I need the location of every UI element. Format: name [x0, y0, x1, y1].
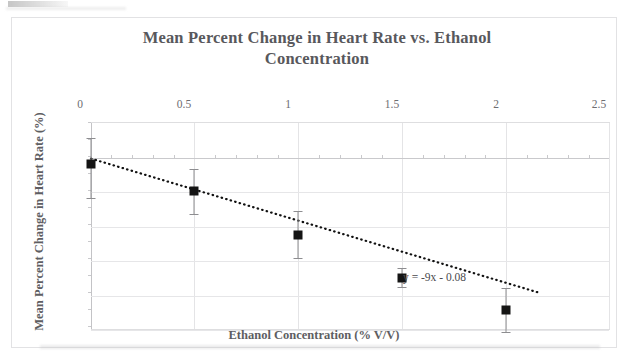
x-minor-tick — [382, 155, 383, 158]
gridline-vertical — [609, 123, 610, 329]
x-minor-tick — [465, 155, 466, 158]
data-point-marker[interactable] — [294, 231, 303, 240]
x-minor-tick — [361, 155, 362, 158]
data-point-marker[interactable] — [502, 306, 511, 315]
gridline-horizontal — [91, 261, 609, 262]
x-minor-tick — [153, 155, 154, 158]
chart-title: Mean Percent Change in Heart Rate vs. Et… — [72, 27, 562, 69]
chart-title-line-2: Concentration — [265, 49, 369, 68]
x-minor-tick — [236, 155, 237, 158]
error-bar-cap-upper — [294, 211, 303, 212]
x-minor-tick — [568, 155, 569, 158]
x-minor-tick — [340, 155, 341, 158]
x-minor-tick — [444, 155, 445, 158]
error-bar-cap-upper — [87, 138, 96, 139]
x-minor-tick — [257, 155, 258, 158]
gridline-zero — [91, 158, 609, 159]
data-point-marker[interactable] — [87, 160, 96, 169]
x-tick-label-2_5: 2.5 — [592, 98, 606, 110]
plot-area: y = -9x - 0.08 — [91, 122, 610, 330]
gridline-horizontal — [91, 192, 609, 193]
x-tick-label-1_5: 1.5 — [385, 98, 399, 110]
error-bar-cap-lower — [294, 258, 303, 259]
x-minor-tick — [174, 155, 175, 158]
x-tick-label-2: 2 — [493, 98, 499, 110]
x-minor-tick — [423, 155, 424, 158]
x-tick-label-1: 1 — [285, 98, 291, 110]
x-minor-tick — [278, 155, 279, 158]
data-point-marker[interactable] — [190, 187, 199, 196]
gridline-horizontal — [91, 227, 609, 228]
x-minor-tick — [527, 155, 528, 158]
gridline-vertical — [194, 123, 195, 329]
x-axis-title: Ethanol Concentration (% V/V) — [12, 328, 616, 343]
scan-artifact-top-secondary — [6, 7, 126, 10]
x-minor-tick — [132, 155, 133, 158]
chart-figure: Mean Percent Change in Heart Rate vs. Et… — [11, 17, 617, 348]
x-tick-label-0: 0 — [77, 98, 83, 110]
x-minor-tick — [215, 155, 216, 158]
error-bar-cap-lower — [87, 198, 96, 199]
chart-title-line-1: Mean Percent Change in Heart Rate vs. Et… — [143, 28, 492, 47]
gridline-vertical — [402, 123, 403, 329]
x-minor-tick — [111, 155, 112, 158]
scan-artifact-bottom — [40, 345, 600, 349]
error-bar-cap-lower — [190, 214, 199, 215]
error-bar-cap-upper — [502, 288, 511, 289]
gridline-horizontal — [91, 296, 609, 297]
x-minor-tick — [319, 155, 320, 158]
y-axis-title: Mean Percent Change in Heart Rate (%) — [32, 77, 47, 362]
x-minor-tick — [589, 155, 590, 158]
error-bar-cap-lower — [398, 287, 407, 288]
trendline-equation-label: y = -9x - 0.08 — [403, 271, 466, 283]
x-minor-tick — [547, 155, 548, 158]
x-tick-label-0_5: 0.5 — [177, 98, 191, 110]
x-minor-tick — [485, 155, 486, 158]
error-bar-cap-upper — [190, 169, 199, 170]
error-bar-cap-upper — [398, 268, 407, 269]
